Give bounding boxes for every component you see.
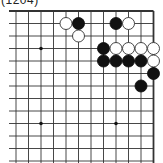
white-stone (60, 18, 72, 30)
hoshi-point (39, 47, 43, 51)
white-stone (110, 43, 122, 55)
black-stone (73, 18, 85, 30)
go-board (0, 0, 163, 163)
black-stone (98, 43, 110, 55)
black-stone (110, 55, 122, 67)
black-stone (110, 18, 122, 30)
white-stone (123, 18, 135, 30)
black-stone (123, 55, 135, 67)
white-stone (148, 55, 160, 67)
white-stone (135, 43, 147, 55)
white-stone (123, 43, 135, 55)
black-stone (148, 68, 160, 80)
black-stone (135, 80, 147, 92)
hoshi-point (39, 122, 43, 126)
stones-layer (60, 18, 160, 93)
black-stone (98, 55, 110, 67)
hoshi-point (114, 122, 118, 126)
white-stone (148, 43, 160, 55)
white-stone (73, 30, 85, 42)
black-stone (135, 55, 147, 67)
